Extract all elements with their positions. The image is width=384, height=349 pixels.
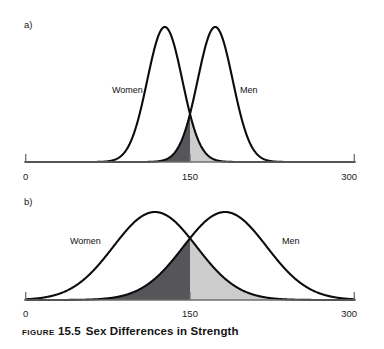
panel-a-women-label: Women [112,85,143,95]
panel-b-overlap-shading [26,238,355,300]
panel-a: 0 150 300 a) Women Men [23,19,357,182]
figure-caption-number: 15.5 [58,325,81,337]
panel-a-men-overlap-fill [190,114,354,162]
panel-a-letter: a) [24,19,32,30]
figure-caption-label: Figure [22,325,55,337]
panel-a-axis [25,154,355,162]
panel-b-women-label: Women [70,236,101,246]
figure-caption-text: Figure 15.5Sex Differences in Strength [22,325,239,337]
panel-a-tick-label-0: 0 [23,171,28,182]
panel-a-tick-label-150: 150 [182,171,198,182]
panel-b-axis [25,292,355,300]
panel-a-women-overlap-fill [26,114,190,162]
panel-a-tick-label-300: 300 [341,171,357,182]
panel-b-men-label: Men [282,236,300,246]
figure-caption-title: Sex Differences in Strength [86,325,239,337]
panel-b: 0 150 300 b) Women Men [23,196,357,319]
figure-plot-area: 0 150 300 a) Women Men 0 1 [0,0,384,349]
panel-b-letter: b) [24,196,32,207]
figure-container: 0 150 300 a) Women Men 0 1 [0,0,384,349]
figure-caption: Figure 15.5Sex Differences in Strength [0,313,384,349]
panel-a-men-label: Men [240,85,258,95]
